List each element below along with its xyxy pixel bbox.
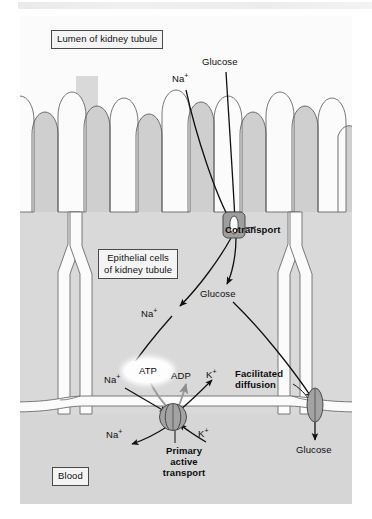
label-glucose-blood: Glucose	[296, 444, 332, 455]
label-k-pump-inside: K+	[206, 369, 217, 380]
label-k-pump-inside-charge: +	[212, 368, 216, 375]
glucose-carrier-protein	[307, 388, 323, 422]
label-na-cytoplasm: Na+	[141, 308, 158, 319]
label-na-pump-inside-charge: +	[116, 373, 120, 380]
label-primary-active-transport: Primary active transport	[141, 445, 227, 478]
diagram-canvas	[20, 16, 352, 504]
label-na-pump-inside: Na+	[104, 374, 121, 385]
label-cotransport: Cotransport	[225, 224, 280, 235]
label-glucose-lumen: Glucose	[202, 56, 238, 67]
label-na-cytoplasm-charge: +	[153, 307, 157, 314]
label-adp: ADP	[171, 370, 191, 381]
label-na-lumen-charge: +	[184, 72, 188, 79]
sodium-potassium-pump-protein	[160, 404, 187, 431]
label-glucose-cytoplasm: Glucose	[200, 288, 236, 299]
label-na-cytoplasm-text: Na	[141, 308, 153, 319]
label-na-blood-charge: +	[118, 428, 122, 435]
label-na-lumen-text: Na	[172, 73, 184, 84]
label-epithelial-cells-of-kidney-tubule: Epithelial cells of kidney tubule	[98, 249, 178, 279]
label-blood: Blood	[52, 467, 89, 486]
label-lumen-of-kidney-tubule: Lumen of kidney tubule	[51, 30, 163, 49]
microvilli-group	[20, 90, 352, 212]
label-atp: ATP	[131, 365, 165, 376]
label-na-blood: Na+	[106, 429, 123, 440]
scan-artifact-bar	[18, 2, 372, 9]
label-na-lumen: Na+	[172, 73, 189, 84]
label-na-pump-inside-text: Na	[104, 374, 116, 385]
label-k-blood-charge: +	[204, 427, 208, 434]
kidney-tubule-transport-diagram: Lumen of kidney tubule Epithelial cells …	[20, 16, 352, 504]
label-facilitated-diffusion: Facilitated diffusion	[235, 368, 309, 390]
label-na-blood-text: Na	[106, 429, 118, 440]
label-k-blood: K+	[198, 428, 209, 439]
